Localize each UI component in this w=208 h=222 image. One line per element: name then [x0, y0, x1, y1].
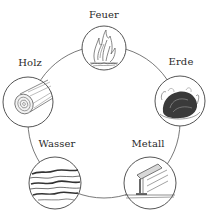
node-metall [124, 157, 176, 209]
label-metall: Metall [131, 138, 164, 149]
node-holz [3, 77, 53, 127]
node-wasser [29, 157, 81, 209]
node-erde [155, 76, 205, 126]
five-elements-diagram [0, 0, 208, 222]
label-wasser: Wasser [39, 138, 76, 149]
node-feuer [82, 26, 126, 70]
label-erde: Erde [169, 56, 194, 67]
label-feuer: Feuer [89, 9, 119, 20]
label-holz: Holz [18, 57, 42, 68]
